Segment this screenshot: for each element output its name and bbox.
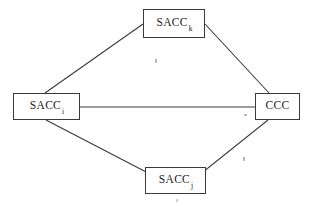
node-sacc-k-label: SACCk (157, 17, 192, 31)
node-sacc-k: SACCk (143, 9, 205, 38)
edge-sacc-k-ccc (205, 24, 269, 93)
edge-sacc-i-sacc-j (46, 120, 150, 174)
node-ccc: CCC (255, 93, 300, 120)
edge-sacc-i-sacc-k (45, 24, 143, 93)
node-sacc-i: SACCi (13, 93, 80, 120)
node-sacc-k-subscript: k (189, 24, 193, 33)
edge-sacc-j-ccc (203, 120, 268, 172)
figure-canvas: SACCk SACCi CCC SACCj (0, 0, 315, 206)
node-sacc-j-label: SACCj (159, 174, 192, 188)
node-sacc-i-label: SACCi (30, 100, 63, 114)
node-sacc-j-subscript: j (191, 181, 193, 190)
node-sacc-j: SACCj (145, 167, 206, 194)
node-sacc-i-subscript: i (62, 107, 64, 116)
node-ccc-label: CCC (266, 100, 290, 114)
